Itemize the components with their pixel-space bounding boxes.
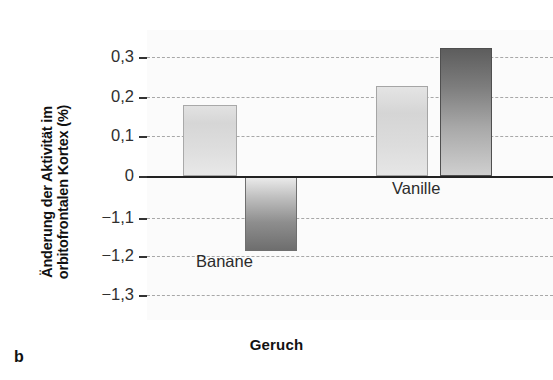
gridline-0_2: [147, 97, 553, 98]
y-tick-label-0: 0,3: [72, 47, 134, 66]
group-label-banane: Banane: [196, 252, 253, 271]
y-tick-label-2: 0,1: [72, 126, 134, 145]
group-label-vanille: Vanille: [392, 179, 440, 198]
y-axis-title-line-1: Änderung der Aktivität im: [39, 106, 55, 278]
gridline-minus-1_3: [147, 295, 553, 296]
y-axis-title: Änderung der Aktivität im orbitofrontale…: [33, 42, 77, 342]
bar-vanille-dark: [440, 48, 492, 176]
bar-banane-light: [183, 105, 237, 176]
figure-panel-b: Änderung der Aktivität im orbitofrontale…: [0, 0, 553, 380]
panel-letter: b: [14, 348, 24, 366]
y-tick-label-4: −1,1: [72, 208, 134, 227]
y-tick-label-6: −1,3: [72, 285, 134, 304]
x-axis-title: Geruch: [0, 336, 553, 353]
bar-vanille-light: [376, 86, 428, 176]
gridline-minus-1_1: [147, 218, 553, 219]
y-axis-title-line-2: orbitofrontalen Kortex (%): [55, 105, 71, 279]
y-tick-label-3: 0: [72, 166, 134, 185]
y-tick-label-1: 0,2: [72, 87, 134, 106]
gridline-0_3: [147, 57, 553, 58]
bar-banane-dark: [245, 176, 297, 251]
zero-axis-line: [147, 176, 553, 178]
plot-area: Banane Vanille: [147, 30, 553, 320]
y-tick-label-5: −1,2: [72, 246, 134, 265]
